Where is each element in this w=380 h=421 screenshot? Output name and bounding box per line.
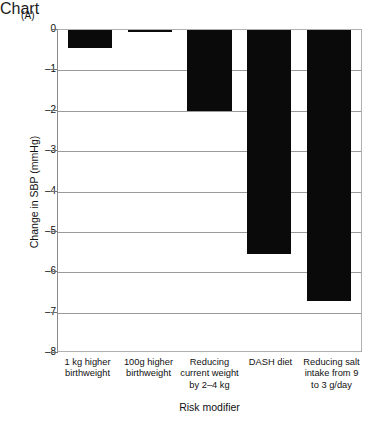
figure-panel-a: (A) Change in SBP (mmHg) 0–1–2–3–4–5–6–7…	[0, 0, 380, 421]
bar	[128, 30, 172, 32]
bar-slot	[299, 30, 359, 351]
y-tick-mark	[51, 352, 57, 353]
x-axis-title: Risk modifier	[57, 401, 362, 413]
bar	[247, 30, 291, 254]
bar-series	[58, 30, 361, 351]
x-tick-label: Reducing current weight by 2–4 kg	[179, 357, 240, 391]
bar-slot	[239, 30, 299, 351]
bar-slot	[180, 30, 240, 351]
plot-area	[57, 29, 362, 352]
bar-slot	[120, 30, 180, 351]
x-axis-tick-labels: 1 kg higher birthweight100g higher birth…	[57, 357, 362, 391]
bar	[68, 30, 112, 48]
x-tick-label: 1 kg higher birthweight	[57, 357, 118, 391]
bar	[187, 30, 231, 111]
bar-slot	[60, 30, 120, 351]
panel-label: (A)	[21, 10, 35, 22]
x-tick-label: Reducing salt intake from 9 to 3 g/day	[301, 357, 362, 391]
x-tick-label: 100g higher birthweight	[118, 357, 179, 391]
bar	[307, 30, 351, 301]
x-tick-label: DASH diet	[240, 357, 301, 391]
